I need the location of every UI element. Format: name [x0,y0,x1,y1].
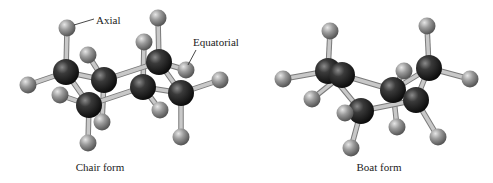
boat-conformation [275,18,479,157]
hydrogen-atom [94,114,111,131]
equatorial-label: Equatorial [193,36,239,48]
hydrogen-atom [80,47,97,64]
hydrogen-atom [178,62,195,79]
carbon-atom [53,59,79,85]
carbon-atom [416,55,442,81]
equatorial-leader-line [188,50,196,65]
hydrogen-atom [343,140,360,157]
carbon-atom [130,74,156,100]
carbon-atom [76,92,102,118]
hydrogen-atom [52,87,69,104]
hydrogen-atom [212,72,229,89]
hydrogen-atom [59,20,76,37]
carbon-atom [168,80,194,106]
hydrogen-atom [396,63,413,80]
hydrogen-atom [430,129,447,146]
molecule-diagram: Chair form Boat form Axial Equatorial [0,0,493,183]
carbon-atom [380,77,406,103]
cyclohexane-conformations-figure: Chair form Boat form Axial Equatorial [0,0,493,183]
chair-form-caption: Chair form [76,161,125,173]
hydrogen-atom [322,23,339,40]
carbon-atom [146,49,172,75]
hydrogen-atom [304,91,321,108]
chair-conformation [20,10,229,152]
hydrogen-atom [173,129,190,146]
axial-leader-line [74,19,94,25]
hydrogen-atom [419,18,436,35]
hydrogen-atom [389,119,406,136]
hydrogen-atom [275,71,292,88]
hydrogen-atom [337,105,354,122]
hydrogen-atom [462,71,479,88]
carbon-atom [403,87,429,113]
carbon-atom [91,67,117,93]
hydrogen-atom [152,102,169,119]
hydrogen-atom [80,135,97,152]
hydrogen-atom [136,34,153,51]
carbon-atom [329,62,355,88]
boat-form-caption: Boat form [357,161,402,173]
axial-label: Axial [96,14,120,26]
hydrogen-atom [150,10,167,27]
hydrogen-atom [20,77,37,94]
